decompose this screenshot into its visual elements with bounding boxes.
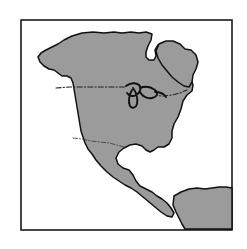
map-canvas: Outline map of North America and Central… (0, 0, 247, 249)
map-figure: North America Outline map of North Ameri… (0, 0, 247, 249)
region-south-america-corner (173, 187, 232, 229)
